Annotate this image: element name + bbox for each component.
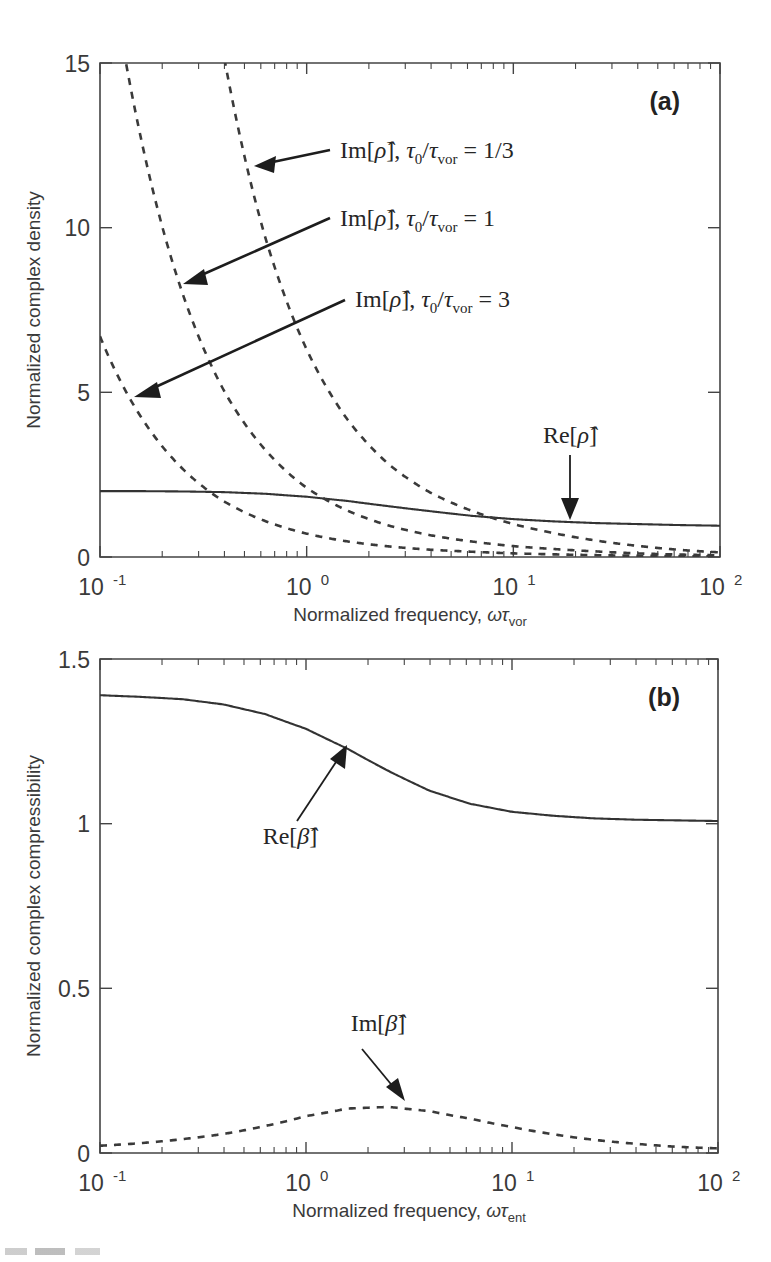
- svg-text:10: 10: [697, 1170, 723, 1196]
- annot-a2-tau2sub: vor: [453, 300, 473, 316]
- panel-b-xlabel-sym: ωτ: [486, 1200, 509, 1221]
- svg-text:Normalized frequency, ωτvor: Normalized frequency, ωτvor: [293, 604, 527, 629]
- svg-text:2: 2: [732, 1167, 740, 1184]
- panel-b-ytick-1: 1: [77, 811, 90, 837]
- svg-text:Im[β̂]: Im[β̂]: [351, 1010, 407, 1036]
- series-curve: [100, 695, 718, 821]
- annot-a0-eq: = 1/3: [458, 137, 514, 163]
- panel-a-ytick-15: 15: [64, 51, 90, 77]
- panel-a-xlabel-main: Normalized frequency,: [293, 604, 487, 625]
- svg-text:10: 10: [285, 1170, 311, 1196]
- annot-a1-tausub: 0: [415, 219, 423, 235]
- svg-text:2: 2: [734, 571, 742, 588]
- annot-a2-post: ],: [401, 286, 421, 312]
- svg-text:Im[ρ̂], τ0/τvor = 3: Im[ρ̂], τ0/τvor = 3: [355, 286, 510, 316]
- panel-a-ytick-5: 5: [77, 380, 90, 406]
- panel-a-ytick-0: 0: [77, 545, 90, 571]
- annot-b0-pre: Re[: [263, 823, 298, 849]
- panel-b-x-ticks: [100, 659, 718, 1153]
- annot-a2-pre: Im[: [355, 286, 390, 312]
- annot-a0-post: ],: [386, 137, 406, 163]
- panel-b-ytick-0: 0: [77, 1141, 90, 1167]
- svg-text:Re[β̂]: Re[β̂]: [263, 823, 319, 849]
- svg-text:10: 10: [699, 574, 725, 600]
- svg-text:10: 10: [78, 1170, 104, 1196]
- chart-panel-a: 0 5 10 15 10 -1 10 0 10 1 10 2: [0, 0, 771, 631]
- series-curve: [100, 0, 720, 552]
- annotation-im-rho-third: Im[ρ̂], τ0/τvor = 1/3: [254, 137, 514, 173]
- annot-a0-tau2sub: vor: [438, 151, 458, 167]
- panel-a-xtick-label-3: 10 2: [699, 571, 742, 600]
- annot-a0-pre: Im[: [340, 137, 375, 163]
- panel-b-xtick-label-1: 10 0: [285, 1167, 328, 1196]
- panel-b-xtick-label-2: 10 1: [491, 1167, 534, 1196]
- annot-a1-eq: = 1: [458, 205, 496, 231]
- panel-b-ytick-05: 0.5: [58, 976, 90, 1002]
- annot-b0-post: ]: [309, 823, 317, 849]
- panel-a-x-axis-title: Normalized frequency, ωτvor: [293, 604, 527, 629]
- annotation-im-rho-one: Im[ρ̂], τ0/τvor = 1: [183, 205, 495, 285]
- panel-b-xtick-label-3: 10 2: [697, 1167, 740, 1196]
- annot-a2-eq: = 3: [473, 286, 511, 312]
- svg-text:10: 10: [286, 574, 312, 600]
- annot-a1-tau2sub: vor: [438, 219, 458, 235]
- svg-text:Im[ρ̂], τ0/τvor = 1/3: Im[ρ̂], τ0/τvor = 1/3: [340, 137, 514, 167]
- panel-a-xlabel-sub: vor: [509, 614, 528, 629]
- panel-a-xtick-label-0: 10 -1: [78, 571, 126, 600]
- series-curve: [100, 1107, 718, 1148]
- panel-a-ytick-10: 10: [64, 215, 90, 241]
- series-curve: [100, 491, 720, 526]
- svg-text:Normalized frequency, ωτent: Normalized frequency, ωτent: [292, 1200, 526, 1225]
- svg-text:1: 1: [526, 1167, 534, 1184]
- annot-a3-pre: Re[: [543, 422, 578, 448]
- svg-text:1: 1: [527, 571, 535, 588]
- panel-b-xtick-label-0: 10 -1: [78, 1167, 126, 1196]
- annotation-im-beta: Im[β̂]: [351, 1010, 407, 1101]
- svg-text:10: 10: [493, 574, 519, 600]
- svg-text:0: 0: [321, 571, 329, 588]
- svg-text:-1: -1: [113, 1167, 126, 1184]
- annot-a1-post: ],: [386, 205, 406, 231]
- annot-a3-post: ]: [589, 422, 597, 448]
- panel-b-svg: 0 0.5 1 1.5 10 -1 10 0 10 1 10 2 N: [0, 631, 771, 1262]
- annot-b1-pre: Im[: [351, 1010, 386, 1036]
- annot-a2-tausub: 0: [430, 300, 438, 316]
- panel-a-xtick-label-2: 10 1: [493, 571, 536, 600]
- annot-a0-tausub: 0: [415, 151, 423, 167]
- panel-a-xlabel-sym: ωτ: [487, 604, 510, 625]
- chart-panel-b: 0 0.5 1 1.5 10 -1 10 0 10 1 10 2 N: [0, 631, 771, 1262]
- annotation-re-rho: Re[ρ̂]: [543, 422, 598, 520]
- panel-b-x-axis-title: Normalized frequency, ωτent: [292, 1200, 526, 1225]
- panel-b-xlabel-sub: ent: [508, 1210, 526, 1225]
- page-edge-artifact: [5, 1248, 125, 1255]
- panel-b-curves: [100, 695, 718, 1148]
- svg-text:10: 10: [78, 574, 104, 600]
- panel-a-tag: (a): [649, 87, 680, 115]
- panel-b-ytick-15: 1.5: [58, 647, 90, 673]
- figure-container: 0 5 10 15 10 -1 10 0 10 1 10 2: [0, 0, 771, 1262]
- panel-b-y-ticks: [100, 659, 718, 1153]
- svg-text:0: 0: [320, 1167, 328, 1184]
- panel-a-svg: 0 5 10 15 10 -1 10 0 10 1 10 2: [0, 0, 771, 631]
- svg-text:Re[ρ̂]: Re[ρ̂]: [543, 422, 598, 448]
- svg-text:-1: -1: [113, 571, 126, 588]
- svg-text:Im[ρ̂], τ0/τvor = 1: Im[ρ̂], τ0/τvor = 1: [340, 205, 495, 235]
- panel-a-y-axis-title: Normalized complex density: [23, 191, 44, 429]
- annotation-re-beta: Re[β̂]: [263, 745, 347, 849]
- annot-a1-pre: Im[: [340, 205, 375, 231]
- panel-b-axes-frame: [100, 659, 718, 1153]
- annot-b1-post: ]: [397, 1010, 405, 1036]
- panel-b-y-axis-title: Normalized complex compressibility: [23, 755, 44, 1057]
- svg-text:10: 10: [491, 1170, 517, 1196]
- panel-a-xtick-label-1: 10 0: [286, 571, 329, 600]
- panel-b-xlabel-main: Normalized frequency,: [292, 1200, 486, 1221]
- panel-b-tag: (b): [648, 683, 680, 711]
